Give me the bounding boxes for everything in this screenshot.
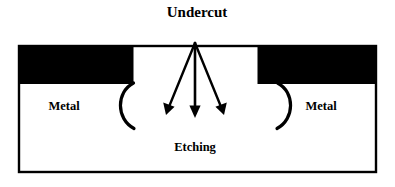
diagram-title: Undercut [167, 4, 228, 20]
mask-layer-right [258, 46, 376, 84]
region-label-metal-right: Metal [305, 99, 337, 113]
undercut-etching-diagram: Undercut Metal Metal Etch [0, 0, 395, 187]
mask-layer-left [19, 46, 133, 84]
process-label-etching: Etching [174, 140, 216, 154]
region-label-metal-left: Metal [48, 99, 80, 113]
diagram-canvas: Undercut Metal Metal Etch [0, 0, 395, 187]
